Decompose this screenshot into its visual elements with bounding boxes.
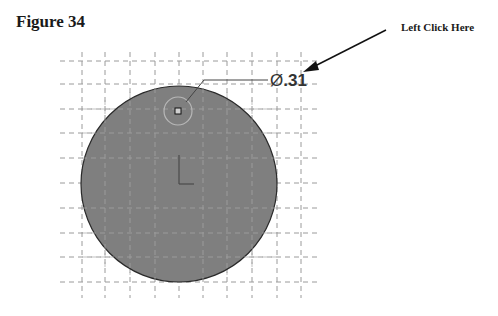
hole-center-point-icon[interactable] (175, 108, 181, 114)
dimension-label[interactable]: Ø.31 (270, 71, 307, 90)
sketch-canvas[interactable]: Ø.31 (0, 0, 498, 316)
arrow-icon (303, 30, 386, 72)
